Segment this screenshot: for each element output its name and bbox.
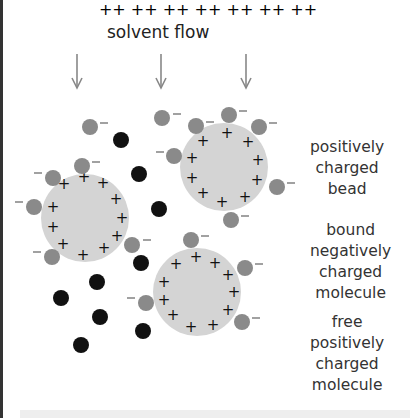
label-positively-charged-bead: positively charged bead [310,137,384,200]
svg-text:+: + [77,246,90,264]
label-free-positively-charged-molecule: free positively charged molecule [310,312,384,396]
svg-text:+: + [216,193,229,211]
svg-text:+: + [47,218,60,236]
label-bound-negatively-charged-molecule: bound negatively charged molecule [310,220,391,304]
svg-text:+: + [209,254,222,272]
svg-text:+: + [222,301,235,319]
svg-text:+: + [207,316,220,334]
svg-text:+: + [170,255,183,273]
svg-text:+: + [221,124,234,142]
svg-text:+: + [167,306,180,324]
svg-text:+: + [57,235,70,253]
svg-text:+: + [190,248,203,266]
svg-text:+: + [98,239,111,257]
svg-text:+: + [110,190,123,208]
svg-text:+: + [242,133,255,151]
svg-text:+: + [222,266,235,284]
svg-text:+: + [111,227,124,245]
bottom-strip [20,410,410,418]
svg-text:+: + [197,132,210,150]
svg-text:+: + [197,184,210,202]
svg-text:+: + [47,198,60,216]
svg-text:+: + [186,149,199,167]
svg-text:+: + [228,283,241,301]
svg-text:+: + [158,273,171,291]
svg-text:+: + [239,188,252,206]
svg-text:+: + [97,174,110,192]
flow-arrows [72,54,251,88]
svg-text:+: + [252,151,265,169]
svg-text:+: + [116,209,129,227]
svg-text:+: + [251,171,264,189]
svg-text:+: + [185,318,198,336]
